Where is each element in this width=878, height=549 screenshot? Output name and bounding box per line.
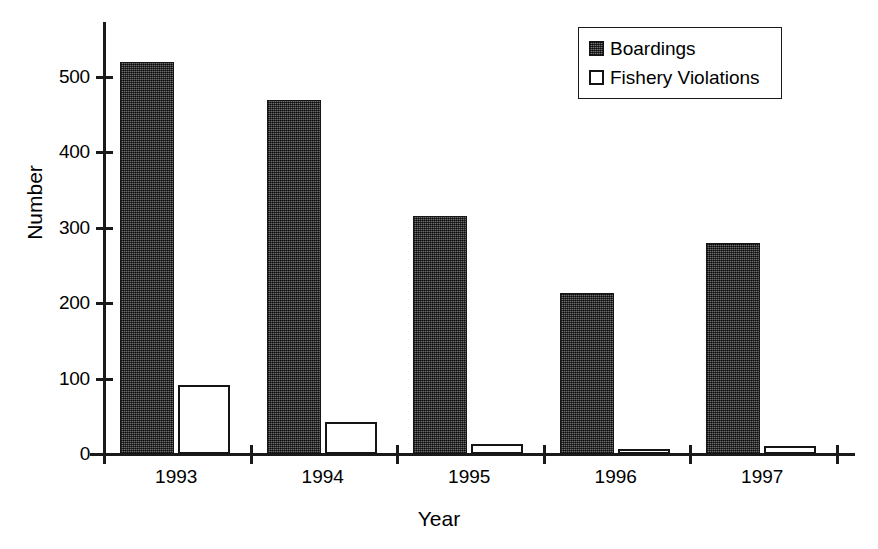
y-tick-label: 0 — [28, 444, 90, 463]
y-tick-mark — [96, 302, 113, 305]
x-tick-label-1995: 1995 — [409, 466, 529, 488]
y-axis-title: Number — [24, 123, 45, 283]
bar-fishery-violations-1995 — [471, 444, 523, 454]
y-axis-line — [103, 22, 106, 456]
bar-fishery-violations-1994 — [325, 422, 377, 454]
chart-legend: Boardings Fishery Violations — [578, 27, 782, 99]
x-tick-mark — [250, 445, 253, 464]
y-tick-label: 500 — [28, 67, 90, 86]
bar-boardings-1993 — [120, 62, 174, 454]
x-tick-mark — [103, 445, 106, 464]
bar-fishery-violations-1996 — [618, 449, 670, 454]
x-tick-label-1994: 1994 — [263, 466, 383, 488]
white-swatch-icon — [589, 70, 604, 85]
x-tick-label-1993: 1993 — [116, 466, 236, 488]
dark-hatched-swatch-icon — [589, 41, 604, 56]
bar-fishery-violations-1993 — [178, 385, 230, 454]
y-tick-mark — [96, 378, 113, 381]
bar-fishery-violations-1997 — [764, 446, 816, 454]
legend-entry-fishery-violations: Fishery Violations — [589, 63, 781, 92]
bar-boardings-1995 — [413, 216, 467, 454]
x-tick-mark — [543, 445, 546, 464]
legend-entry-boardings: Boardings — [589, 34, 781, 63]
bar-boardings-1994 — [267, 100, 321, 454]
bar-boardings-1997 — [706, 243, 760, 454]
y-tick-mark — [96, 76, 113, 79]
x-tick-mark — [689, 445, 692, 464]
y-tick-mark — [96, 151, 113, 154]
x-tick-mark — [836, 445, 839, 464]
x-tick-mark — [396, 445, 399, 464]
bar-boardings-1996 — [560, 293, 614, 454]
y-tick-label: 200 — [28, 293, 90, 312]
x-tick-label-1997: 1997 — [702, 466, 822, 488]
legend-label-fishery-violations: Fishery Violations — [610, 68, 760, 87]
y-tick-label: 100 — [28, 369, 90, 388]
legend-label-boardings: Boardings — [610, 39, 696, 58]
x-axis-title: Year — [0, 508, 878, 529]
x-tick-label-1996: 1996 — [556, 466, 676, 488]
bar-chart: 0100200300400500 19931994199519961997 Nu… — [0, 0, 878, 549]
y-tick-mark — [96, 227, 113, 230]
